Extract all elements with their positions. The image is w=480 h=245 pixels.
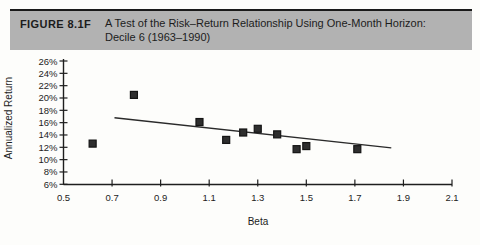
figure-title-line1: A Test of the Risk–Return Relationship U… xyxy=(105,17,426,29)
data-point xyxy=(274,131,281,138)
figure-title: A Test of the Risk–Return Relationship U… xyxy=(105,16,426,44)
x-tick-label: 1.9 xyxy=(397,192,410,203)
data-point xyxy=(293,146,300,153)
y-tick-label: 20% xyxy=(38,92,58,103)
data-point xyxy=(223,136,230,143)
y-tick-label: 18% xyxy=(38,105,58,116)
figure-number-label: FIGURE 8.1F xyxy=(20,16,91,44)
y-tick-label: 6% xyxy=(44,179,58,190)
data-point xyxy=(196,119,203,126)
x-tick-label: 0.9 xyxy=(154,192,167,203)
y-tick-label: 12% xyxy=(38,142,58,153)
data-point xyxy=(254,125,261,132)
data-point xyxy=(354,146,361,153)
x-tick-label: 2.1 xyxy=(445,192,458,203)
figure-header-bar: FIGURE 8.1F A Test of the Risk–Return Re… xyxy=(10,9,472,50)
y-tick-label: 10% xyxy=(38,154,58,165)
textbook-figure-page: FIGURE 8.1F A Test of the Risk–Return Re… xyxy=(0,0,480,245)
tick-labels: 26%24%22%20%18%16%14%12%10%8%6%0.50.70.9… xyxy=(38,56,458,203)
y-tick-label: 16% xyxy=(38,117,58,128)
chart-area: Annualized Return Beta 26%24%22%20%18%16… xyxy=(0,55,480,245)
y-axis-label: Annualized Return xyxy=(3,77,14,159)
x-tick-label: 1.3 xyxy=(251,192,264,203)
data-points xyxy=(89,91,361,152)
x-tick-label: 0.7 xyxy=(105,192,118,203)
axes xyxy=(64,59,453,185)
trend-line xyxy=(114,118,391,148)
data-point xyxy=(130,91,137,98)
y-tick-label: 26% xyxy=(38,56,58,67)
x-tick-label: 1.7 xyxy=(348,192,361,203)
x-axis-label: Beta xyxy=(248,216,269,227)
y-tick-label: 8% xyxy=(44,166,58,177)
x-tick-label: 1.1 xyxy=(203,192,216,203)
data-point xyxy=(303,143,310,150)
scatter-chart: Annualized Return Beta 26%24%22%20%18%16… xyxy=(0,55,480,245)
data-point xyxy=(89,140,96,147)
y-tick-label: 14% xyxy=(38,129,58,140)
y-tick-label: 22% xyxy=(38,80,58,91)
trend-line-group xyxy=(114,118,391,148)
figure-title-line2: Decile 6 (1963–1990) xyxy=(105,30,426,44)
data-point xyxy=(240,129,247,136)
y-tick-label: 24% xyxy=(38,68,58,79)
tick-marks xyxy=(60,61,453,187)
x-tick-label: 1.5 xyxy=(300,192,313,203)
x-tick-label: 0.5 xyxy=(57,192,70,203)
